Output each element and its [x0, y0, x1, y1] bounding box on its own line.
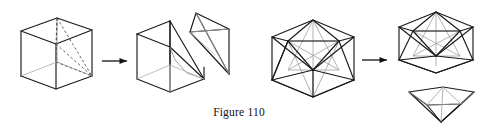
figure-caption: Figure 110	[0, 106, 478, 118]
transform-arrow-right	[362, 57, 387, 63]
transform-arrow-left	[102, 58, 127, 64]
figure-110: Figure 110	[0, 0, 478, 129]
cube-cut-lines	[56, 18, 92, 76]
